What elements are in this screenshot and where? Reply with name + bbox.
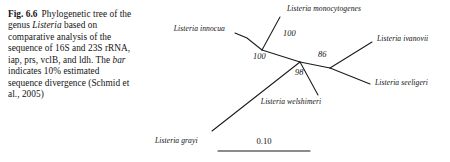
branch-innocua bbox=[235, 33, 262, 50]
branch-internal-a bbox=[262, 50, 300, 62]
phylogenetic-tree: Listeria monocytogenes Listeria innocua … bbox=[140, 0, 450, 162]
branch-welshimeri bbox=[300, 62, 318, 95]
taxon-label-welshimeri: Listeria welshimeri bbox=[261, 97, 321, 106]
figure-number: Fig. 6.6 bbox=[8, 9, 38, 19]
taxon-label-innocua: Listeria innocua bbox=[174, 24, 225, 33]
branch-monocytogenes bbox=[262, 17, 280, 50]
taxon-label-monocytogenes: Listeria monocytogenes bbox=[287, 4, 361, 13]
taxon-label-grayi: Listeria grayi bbox=[155, 136, 198, 145]
figure-caption: Fig. 6.6Phylogenetic tree of the genus L… bbox=[8, 9, 136, 101]
caption-text-part-4: indicates 10% estimated sequence diverge… bbox=[8, 66, 129, 99]
caption-text-part-3: bar bbox=[112, 55, 125, 65]
bootstrap-value-grayi: 100 bbox=[253, 52, 266, 61]
bootstrap-value-ivanovii: 86 bbox=[318, 50, 326, 59]
taxon-label-seeligeri: Listeria seeligeri bbox=[375, 78, 428, 87]
figure-page: Fig. 6.6Phylogenetic tree of the genus L… bbox=[0, 0, 450, 162]
branch-internal-b bbox=[300, 62, 330, 68]
branch-seeligeri bbox=[330, 68, 370, 84]
bootstrap-value-welshimeri: 98 bbox=[295, 68, 303, 77]
branch-ivanovii bbox=[330, 42, 372, 68]
scale-bar-label: 0.10 bbox=[256, 137, 271, 146]
caption-text-part-1: Listeria bbox=[32, 20, 61, 30]
taxon-label-ivanovii: Listeria ivanovii bbox=[377, 34, 428, 43]
bootstrap-value-monocytogenes-innocua: 100 bbox=[283, 29, 296, 38]
